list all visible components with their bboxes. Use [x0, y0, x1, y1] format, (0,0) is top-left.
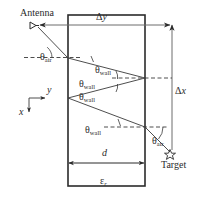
theta-wall-1-label: θwall — [95, 60, 111, 76]
theta-wall-1-tick — [91, 56, 94, 62]
delta-x-label: Δx — [175, 81, 186, 97]
delta-y-subject: y — [102, 11, 106, 22]
coordinate-axes — [29, 98, 45, 112]
theta-air-target-subscript: air — [157, 140, 164, 147]
antenna-label: Antenna — [20, 8, 54, 18]
target-icon — [165, 150, 176, 160]
permittivity-label: εr — [100, 171, 107, 187]
thickness-label: d — [102, 148, 107, 158]
theta-wall-2-arc — [116, 71, 118, 79]
theta-wall-3-subscript: wall — [84, 96, 95, 103]
target-label: Target — [161, 160, 186, 170]
theta-air-target-label: θair — [152, 131, 164, 147]
axis-y-label: y — [47, 85, 51, 95]
theta-air-antenna-subscript: air — [45, 56, 52, 63]
theta-air-antenna-label: θair — [40, 47, 52, 63]
delta-x-subject: x — [181, 85, 185, 96]
antenna-icon — [30, 22, 39, 29]
wall-penetrating-radar-diagram: Antenna Target Δy Δx y x d εr θairθwallθ… — [0, 0, 215, 201]
axis-x-label: x — [19, 107, 23, 117]
theta-wall-4-label: θwall — [85, 120, 101, 136]
permittivity-subject: r — [104, 180, 107, 187]
theta-wall-4-subscript: wall — [90, 129, 101, 136]
diagram-canvas — [0, 0, 215, 201]
theta-wall-3-label: θwall — [79, 87, 95, 103]
delta-y-label: Δy — [96, 7, 107, 23]
theta-wall-1-subscript: wall — [100, 69, 111, 76]
theta-wall-4-tick — [118, 119, 121, 126]
